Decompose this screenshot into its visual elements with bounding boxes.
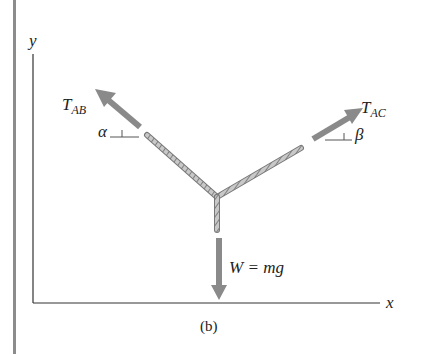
tension-ab-label: TAB <box>62 95 87 117</box>
x-axis-label: x <box>385 293 394 312</box>
rope-knot <box>147 135 301 230</box>
arrowhead-icon <box>211 285 227 300</box>
alpha-label: α <box>98 122 108 141</box>
tension-ac-subscript: AC <box>369 106 386 120</box>
weight-label: W = mg <box>229 258 284 277</box>
beta-label: β <box>354 125 364 144</box>
tension-ac-label: TAC <box>361 98 387 120</box>
y-axis-label: y <box>27 31 37 50</box>
tension-ab-subscript: AB <box>70 103 86 117</box>
angle-beta-marker <box>325 133 352 140</box>
coordinate-axes: y x <box>27 31 394 312</box>
angle-alpha-marker <box>110 130 139 137</box>
free-body-diagram: y x α TAB β TAC W = mg (b) <box>0 0 431 354</box>
figure-caption: (b) <box>200 318 218 335</box>
weight-arrow <box>211 238 227 300</box>
page-border-bar <box>13 0 16 354</box>
